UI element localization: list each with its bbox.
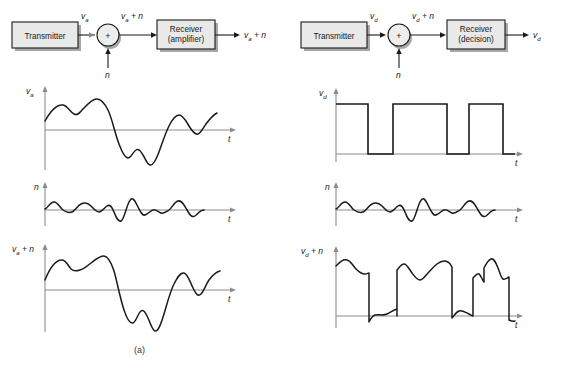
signal-label-mid-b: vd + n: [412, 11, 434, 23]
summer-plus-symbol: +: [396, 31, 401, 41]
noise-input-arrow-b: [396, 48, 401, 68]
axes-noise-a: [42, 182, 236, 226]
ylabel-noise-b: n: [325, 182, 330, 192]
noise-input-label-b: n: [396, 70, 401, 80]
waveform-trace-signal-a: [45, 99, 217, 165]
ylabel-signal-a: va: [26, 86, 34, 98]
noise-input-arrow-a: [105, 48, 110, 68]
wire-summer-to-receiver-a: [119, 32, 157, 37]
axes-sum-a: [42, 244, 236, 332]
transmitter-label: Transmitter: [24, 32, 65, 41]
waveform-trace-sum-a: [45, 256, 220, 331]
plot-noise-b: n t: [281, 180, 563, 238]
signal-label-output-b: vd: [533, 30, 541, 42]
receiver-label-line2: (amplifier): [168, 35, 205, 44]
panel-b: Transmitter + n: [281, 0, 563, 371]
noise-input-label-a: n: [105, 70, 110, 80]
receiver-label-line1: Receiver: [170, 25, 203, 34]
transmitter-block-a: Transmitter: [12, 22, 81, 51]
block-diagram-a: Transmitter + n: [0, 6, 281, 80]
axes-signal-b: [333, 88, 523, 162]
axes-sum-b: [333, 246, 523, 328]
receiver-label-line2: (decision): [458, 35, 494, 44]
ylabel-noise-a: n: [34, 182, 39, 192]
figure-analog-vs-digital-transmission: Transmitter + n: [0, 0, 563, 371]
panel-a: Transmitter + n: [0, 0, 281, 371]
summing-junction-b: +: [388, 24, 412, 49]
xlabel-signal-a: t: [228, 134, 231, 144]
transmitter-block-b: Transmitter: [301, 22, 370, 51]
signal-label-input-a: va: [81, 11, 89, 23]
xlabel-sum-a: t: [228, 294, 231, 304]
signal-label-mid-a: va + n: [121, 11, 143, 23]
waveform-trace-signal-b: [336, 104, 515, 154]
summing-junction-a: +: [97, 24, 121, 49]
xlabel-noise-b: t: [515, 214, 518, 224]
axes-signal-a: [42, 86, 236, 170]
signal-label-output-a: va + n: [244, 30, 266, 42]
wire-summer-to-receiver-b: [410, 32, 446, 37]
plot-signal-a: va t: [0, 82, 281, 178]
receiver-block-a: Receiver (amplifier): [157, 20, 218, 52]
plot-sum-b: vd + n t: [281, 240, 563, 342]
xlabel-signal-b: t: [515, 158, 518, 168]
ylabel-sum-a: va + n: [12, 244, 34, 256]
summer-plus-symbol: +: [105, 31, 110, 41]
block-diagram-b: Transmitter + n: [281, 6, 563, 80]
receiver-label-line1: Receiver: [460, 25, 493, 34]
plot-sum-a: va + n t: [0, 240, 281, 342]
waveform-trace-sum-b: [336, 259, 515, 322]
caption-panel-a: (a): [134, 345, 145, 355]
ylabel-signal-b: vd: [319, 88, 327, 100]
transmitter-label: Transmitter: [313, 32, 354, 41]
xlabel-noise-a: t: [228, 214, 231, 224]
plot-signal-b: vd t: [281, 82, 563, 178]
wire-receiver-output-b: [505, 32, 529, 37]
ylabel-sum-b: vd + n: [301, 246, 323, 258]
wire-receiver-output-a: [215, 32, 240, 37]
plot-noise-a: n t: [0, 180, 281, 238]
signal-label-input-b: vd: [370, 11, 378, 23]
receiver-block-b: Receiver (decision): [447, 20, 508, 52]
